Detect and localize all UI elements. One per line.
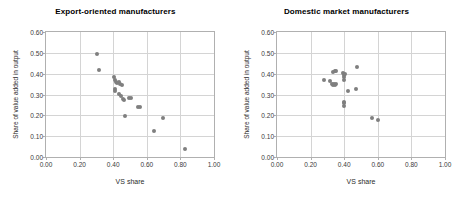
x-tick-label-domestic: 0.40 bbox=[338, 161, 351, 168]
y-tick-mark bbox=[274, 115, 277, 116]
x-tick-label-export: 1.00 bbox=[208, 161, 221, 168]
y-tick-label-domestic: 0.50 bbox=[261, 49, 274, 56]
y-tick-label-export: 0.60 bbox=[30, 29, 43, 36]
y-tick-mark bbox=[274, 32, 277, 33]
x-tick-label-export: 0.00 bbox=[40, 161, 53, 168]
gridline-horizontal bbox=[277, 53, 445, 54]
gridline-horizontal bbox=[46, 115, 214, 116]
panel-export-oriented: Export-oriented manufacturers Share of v… bbox=[0, 0, 231, 201]
x-axis-label-domestic: VS share bbox=[276, 178, 446, 185]
gridline-horizontal bbox=[277, 95, 445, 96]
gridline-vertical bbox=[411, 32, 412, 157]
x-tick-label-domestic: 0.20 bbox=[304, 161, 317, 168]
data-point bbox=[343, 72, 347, 76]
data-point bbox=[334, 69, 338, 73]
gridline-horizontal bbox=[46, 136, 214, 137]
y-tick-mark bbox=[43, 53, 46, 54]
y-tick-mark bbox=[274, 95, 277, 96]
x-tick-mark bbox=[277, 157, 278, 160]
y-tick-label-export: 0.10 bbox=[30, 133, 43, 140]
data-point bbox=[129, 96, 133, 100]
y-tick-label-export: 0.00 bbox=[30, 154, 43, 161]
panel-domestic-market: Domestic market manufacturers Share of v… bbox=[231, 0, 462, 201]
gridline-vertical bbox=[147, 32, 148, 157]
x-tick-label-export: 0.20 bbox=[73, 161, 86, 168]
x-tick-mark bbox=[46, 157, 47, 160]
chart-title-export: Export-oriented manufacturers bbox=[0, 7, 231, 16]
data-point bbox=[322, 78, 326, 82]
y-tick-mark bbox=[43, 74, 46, 75]
x-tick-label-domestic: 0.60 bbox=[371, 161, 384, 168]
data-point bbox=[161, 116, 165, 120]
data-point bbox=[120, 83, 124, 87]
data-point bbox=[122, 98, 126, 102]
data-point bbox=[346, 89, 350, 93]
x-tick-label-export: 0.60 bbox=[140, 161, 153, 168]
y-tick-mark bbox=[43, 32, 46, 33]
y-axis-label-domestic: Share of value added in output bbox=[241, 31, 251, 158]
y-tick-label-domestic: 0.30 bbox=[261, 91, 274, 98]
x-tick-mark bbox=[113, 157, 114, 160]
x-tick-mark bbox=[344, 157, 345, 160]
data-point bbox=[334, 82, 338, 86]
gridline-horizontal bbox=[277, 136, 445, 137]
data-point bbox=[342, 104, 346, 108]
gridline-vertical bbox=[180, 32, 181, 157]
gridline-horizontal bbox=[46, 53, 214, 54]
gridline-vertical bbox=[113, 32, 114, 157]
y-tick-mark bbox=[43, 115, 46, 116]
chart-title-domestic: Domestic market manufacturers bbox=[231, 7, 462, 16]
gridline-vertical bbox=[80, 32, 81, 157]
x-axis-label-export: VS share bbox=[45, 178, 215, 185]
x-tick-label-domestic: 1.00 bbox=[439, 161, 452, 168]
data-point bbox=[183, 147, 187, 151]
data-point bbox=[354, 87, 358, 91]
data-point bbox=[152, 129, 156, 133]
y-tick-label-export: 0.40 bbox=[30, 70, 43, 77]
y-tick-mark bbox=[274, 136, 277, 137]
y-tick-mark bbox=[43, 136, 46, 137]
data-point bbox=[123, 114, 127, 118]
gridline-vertical bbox=[311, 32, 312, 157]
data-point bbox=[370, 116, 374, 120]
x-tick-label-export: 0.40 bbox=[107, 161, 120, 168]
y-tick-label-domestic: 0.60 bbox=[261, 29, 274, 36]
y-axis-label-text-export: Share of value added in output bbox=[12, 50, 19, 139]
scatter-plot-figure: Export-oriented manufacturers Share of v… bbox=[0, 0, 462, 201]
y-axis-label-export: Share of value added in output bbox=[10, 31, 20, 158]
plot-area-export: 0.000.100.200.300.400.500.600.000.200.40… bbox=[45, 31, 215, 158]
y-tick-mark bbox=[274, 53, 277, 54]
data-point bbox=[355, 65, 359, 69]
y-axis-label-text-domestic: Share of value added in output bbox=[243, 50, 250, 139]
y-tick-label-domestic: 0.00 bbox=[261, 154, 274, 161]
gridline-vertical bbox=[344, 32, 345, 157]
x-tick-label-domestic: 0.80 bbox=[405, 161, 418, 168]
gridline-horizontal bbox=[277, 74, 445, 75]
y-tick-label-export: 0.30 bbox=[30, 91, 43, 98]
x-tick-mark bbox=[80, 157, 81, 160]
x-tick-mark bbox=[214, 157, 215, 160]
data-point bbox=[97, 68, 101, 72]
y-tick-label-export: 0.20 bbox=[30, 112, 43, 119]
x-tick-mark bbox=[180, 157, 181, 160]
data-point bbox=[95, 52, 99, 56]
x-tick-mark bbox=[147, 157, 148, 160]
gridline-horizontal bbox=[46, 74, 214, 75]
gridline-vertical bbox=[378, 32, 379, 157]
y-tick-label-domestic: 0.10 bbox=[261, 133, 274, 140]
y-tick-label-export: 0.50 bbox=[30, 49, 43, 56]
x-tick-mark bbox=[311, 157, 312, 160]
y-tick-mark bbox=[43, 95, 46, 96]
data-point bbox=[342, 78, 346, 82]
y-tick-label-domestic: 0.20 bbox=[261, 112, 274, 119]
y-tick-label-domestic: 0.40 bbox=[261, 70, 274, 77]
x-tick-mark bbox=[445, 157, 446, 160]
data-point bbox=[138, 105, 142, 109]
x-tick-label-domestic: 0.00 bbox=[271, 161, 284, 168]
x-tick-label-export: 0.80 bbox=[174, 161, 187, 168]
plot-area-domestic: 0.000.100.200.300.400.500.600.000.200.40… bbox=[276, 31, 446, 158]
y-tick-mark bbox=[274, 74, 277, 75]
x-tick-mark bbox=[411, 157, 412, 160]
gridline-horizontal bbox=[277, 115, 445, 116]
data-point bbox=[376, 118, 380, 122]
